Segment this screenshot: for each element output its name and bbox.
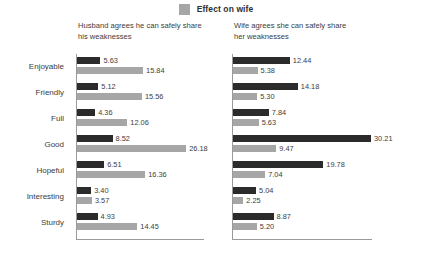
bar-group: 5.1215.56 xyxy=(77,80,204,106)
bar-dark xyxy=(233,135,371,142)
bar-dark xyxy=(77,57,100,64)
bar-dark xyxy=(233,161,323,168)
bar-row: 7.04 xyxy=(233,171,283,178)
bar-row: 2.25 xyxy=(233,197,261,204)
category-label: Sturdy xyxy=(0,210,70,236)
bar-value-label: 15.84 xyxy=(146,67,165,74)
bar-group: 4.3612.06 xyxy=(77,106,204,132)
bar-gray xyxy=(77,93,142,100)
bar-group: 8.875.20 xyxy=(233,210,372,236)
bar-dark xyxy=(233,187,256,194)
bar-row: 5.12 xyxy=(77,83,116,90)
bar-row: 5.20 xyxy=(233,223,274,230)
bar-row: 9.47 xyxy=(233,145,294,152)
bar-value-label: 12.44 xyxy=(293,57,312,64)
panel-title-husband-line2: his weaknesses xyxy=(78,32,132,41)
bar-group: 12.445.38 xyxy=(233,54,372,80)
bar-group: 5.6315.84 xyxy=(77,54,204,80)
bar-value-label: 2.25 xyxy=(246,197,260,204)
grouped-bar-chart: Effect on wife Husband agrees he can saf… xyxy=(0,0,432,259)
bar-row: 5.30 xyxy=(233,93,275,100)
bar-gray xyxy=(233,223,257,230)
panel-titles: Husband agrees he can safely share his w… xyxy=(0,21,432,47)
bar-value-label: 15.56 xyxy=(145,93,164,100)
bar-group: 4.9314.45 xyxy=(77,210,204,236)
bar-value-label: 19.78 xyxy=(326,161,345,168)
bar-row: 5.63 xyxy=(77,57,118,64)
bar-gray xyxy=(233,67,258,74)
category-label: Good xyxy=(0,132,70,158)
bar-gray xyxy=(77,67,143,74)
bar-row: 8.52 xyxy=(77,135,130,142)
plot-area-husband: 5.6315.845.1215.564.3612.068.5226.186.51… xyxy=(76,54,204,240)
bar-value-label: 30.21 xyxy=(374,135,393,142)
chart-legend: Effect on wife xyxy=(0,2,432,16)
panel-title-husband-line1: Husband agrees he can safely share xyxy=(78,21,202,30)
bar-gray xyxy=(77,197,92,204)
bar-group: 6.5116.36 xyxy=(77,158,204,184)
bar-row: 12.06 xyxy=(77,119,149,126)
bar-row: 14.45 xyxy=(77,223,159,230)
legend-swatch-icon xyxy=(179,4,190,15)
bar-gray xyxy=(77,145,186,152)
bar-value-label: 5.38 xyxy=(261,67,275,74)
bar-row: 5.63 xyxy=(233,119,276,126)
bar-value-label: 4.36 xyxy=(98,109,112,116)
category-label: Friendly xyxy=(0,80,70,106)
bar-dark xyxy=(77,213,98,220)
bar-row: 3.57 xyxy=(77,197,109,204)
category-label: Full xyxy=(0,106,70,132)
bar-row: 6.51 xyxy=(77,161,122,168)
bar-row: 15.56 xyxy=(77,93,163,100)
bar-row: 3.40 xyxy=(77,187,109,194)
bar-row: 8.87 xyxy=(233,213,291,220)
category-label: Interesting xyxy=(0,184,70,210)
panel-title-wife-line2: her weaknesses xyxy=(234,32,289,41)
panel-title-husband: Husband agrees he can safely share his w… xyxy=(78,21,228,42)
bar-group: 30.219.47 xyxy=(233,132,372,158)
bar-dark xyxy=(77,135,113,142)
bar-value-label: 9.47 xyxy=(279,145,293,152)
bar-value-label: 14.18 xyxy=(301,83,320,90)
bar-value-label: 4.93 xyxy=(101,213,115,220)
bar-value-label: 3.40 xyxy=(94,187,108,194)
bar-value-label: 5.04 xyxy=(259,187,273,194)
bar-row: 26.18 xyxy=(77,145,208,152)
bar-row: 12.44 xyxy=(233,57,311,64)
bar-value-label: 3.57 xyxy=(95,197,109,204)
panel-title-wife: Wife agrees she can safely share her wea… xyxy=(234,21,384,42)
bar-gray xyxy=(77,223,137,230)
bar-value-label: 5.63 xyxy=(103,57,117,64)
plot-area-wife: 12.445.3814.185.307.845.6330.219.4719.78… xyxy=(232,54,372,240)
bar-dark xyxy=(77,83,98,90)
bar-value-label: 5.20 xyxy=(260,223,274,230)
bar-value-label: 8.52 xyxy=(116,135,130,142)
bar-row: 19.78 xyxy=(233,161,345,168)
bar-group: 7.845.63 xyxy=(233,106,372,132)
bar-group: 8.5226.18 xyxy=(77,132,204,158)
bar-row: 14.18 xyxy=(233,83,319,90)
bar-dark xyxy=(233,213,274,220)
bar-row: 16.36 xyxy=(77,171,167,178)
bar-dark xyxy=(77,187,91,194)
bar-row: 7.84 xyxy=(233,109,286,116)
category-label: Hopeful xyxy=(0,158,70,184)
bar-group: 5.042.25 xyxy=(233,184,372,210)
category-label: Enjoyable xyxy=(0,54,70,80)
bar-value-label: 5.12 xyxy=(101,83,115,90)
bar-gray xyxy=(233,93,257,100)
bar-gray xyxy=(233,145,276,152)
bar-row: 15.84 xyxy=(77,67,165,74)
legend-label-effect-on-wife: Effect on wife xyxy=(197,4,254,14)
bar-value-label: 7.04 xyxy=(268,171,282,178)
bar-gray xyxy=(233,171,265,178)
bar-dark xyxy=(77,109,95,116)
bar-row: 5.38 xyxy=(233,67,275,74)
bar-group: 19.787.04 xyxy=(233,158,372,184)
bar-gray xyxy=(77,119,127,126)
bar-value-label: 8.87 xyxy=(277,213,291,220)
bar-dark xyxy=(233,83,298,90)
bar-dark xyxy=(233,57,290,64)
bar-gray xyxy=(233,119,259,126)
bar-value-label: 5.63 xyxy=(262,119,276,126)
